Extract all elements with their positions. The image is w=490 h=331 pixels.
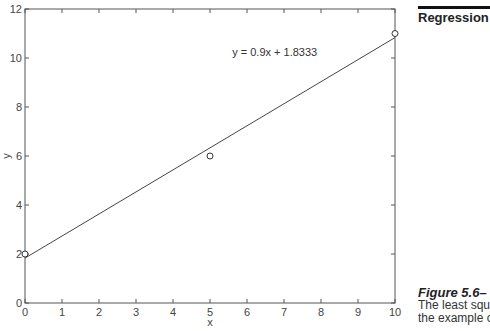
x-tick-label: 6 xyxy=(244,306,250,318)
data-point xyxy=(22,251,28,257)
y-tick-label: 4 xyxy=(16,199,22,211)
figure-caption: Figure 5.6– The least squ the example c xyxy=(418,286,490,325)
caption-line-2: the example c xyxy=(418,312,490,325)
x-tick-label: 3 xyxy=(133,306,139,318)
x-tick-label: 4 xyxy=(170,306,176,318)
y-axis-label: y xyxy=(0,153,12,159)
y-tick-label: 10 xyxy=(10,52,22,64)
y-tick-label: 2 xyxy=(16,248,22,260)
x-tick-label: 10 xyxy=(389,306,401,318)
x-tick-label: 7 xyxy=(281,306,287,318)
section-title: Regression xyxy=(418,10,489,25)
y-tick-label: 6 xyxy=(16,150,22,162)
y-tick-label: 12 xyxy=(10,3,22,15)
x-tick-label: 8 xyxy=(318,306,324,318)
y-tick-label: 0 xyxy=(16,297,22,309)
x-axis-label: x xyxy=(207,316,213,328)
x-tick-label: 1 xyxy=(59,306,65,318)
data-point xyxy=(207,153,213,159)
y-tick-label: 8 xyxy=(16,101,22,113)
x-tick-label: 2 xyxy=(96,306,102,318)
fit-equation: y = 0.9x + 1.8333 xyxy=(232,46,317,58)
x-tick-label: 0 xyxy=(22,306,28,318)
fit-line xyxy=(25,38,395,258)
x-tick-label: 9 xyxy=(355,306,361,318)
section-rule xyxy=(418,6,490,9)
regression-chart: 012345678910024681012xyy = 0.9x + 1.8333 xyxy=(0,0,410,331)
data-point xyxy=(392,31,398,37)
